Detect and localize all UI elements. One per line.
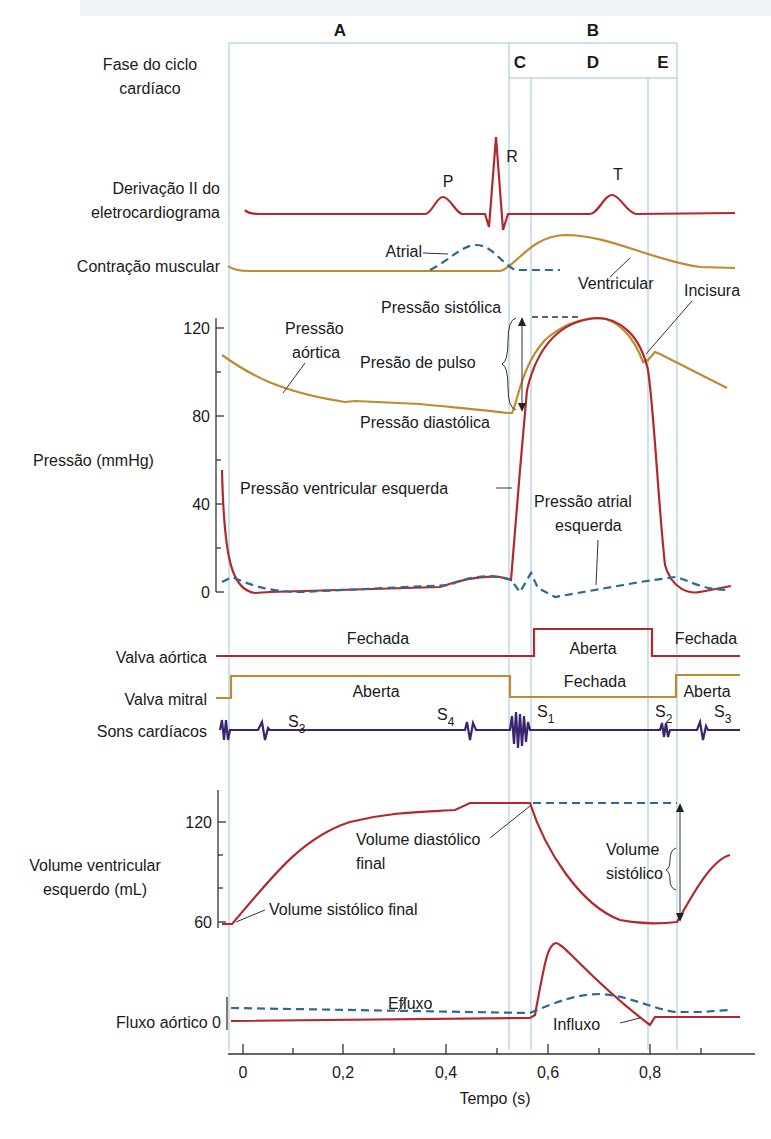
volume-axis-label-2: esquerdo (mL) — [43, 881, 147, 898]
arrow-up-icon — [518, 317, 526, 326]
flow-axis-label: Fluxo aórtico 0 — [116, 1014, 221, 1031]
ecg-r-label: R — [506, 148, 518, 165]
volume-axis — [218, 790, 226, 928]
phase-row-label-1: Fase do ciclo — [103, 56, 197, 73]
efflux-label: Efluxo — [388, 995, 433, 1012]
pressure-tick-120: 120 — [183, 320, 210, 337]
aortic-valve-trace — [216, 629, 740, 656]
ecg-trace — [245, 137, 735, 230]
time-tick-0-4: 0,4 — [435, 1064, 457, 1081]
phase-row-label-2: cardíaco — [119, 80, 180, 97]
s3-label-2: S3 — [714, 703, 732, 726]
phase-guides — [229, 43, 677, 1050]
pressure-axis — [216, 318, 224, 592]
mitral-valve-open-2: Aberta — [683, 683, 730, 700]
edv-label-2: final — [356, 855, 385, 872]
systolic-pressure-label: Pressão sistólica — [381, 299, 501, 316]
influx-label: Influxo — [553, 1016, 600, 1033]
mitral-valve-open-1: Aberta — [352, 683, 399, 700]
mitral-valve-label: Valva mitral — [125, 691, 207, 708]
cardiac-cycle-diagram: A B C D E Fase do ciclo cardíaco Derivaç… — [0, 0, 771, 1139]
s1-label: S1 — [537, 703, 555, 726]
pressure-axis-label: Pressão (mmHg) — [33, 452, 154, 469]
diastolic-pressure-label: Pressão diastólica — [360, 414, 490, 431]
ventricular-contraction-trace — [228, 235, 735, 271]
ecg-t-label: T — [613, 166, 623, 183]
aortic-valve-closed-1: Fechada — [347, 630, 409, 647]
esv-label: Volume sistólico final — [269, 901, 418, 918]
volume-tick-60: 60 — [194, 914, 212, 931]
pulse-pressure-label: Presão de pulso — [360, 354, 476, 371]
phase-c-label: C — [514, 53, 526, 72]
la-pressure-label-1: Pressão atrial — [534, 493, 632, 510]
time-tick-0-6: 0,6 — [537, 1064, 559, 1081]
incisura-label: Incisura — [684, 282, 740, 299]
ecg-label-1: Derivação II do — [112, 180, 220, 197]
time-axis — [228, 1044, 755, 1054]
phase-e-label: E — [657, 53, 668, 72]
phase-b-label: B — [587, 21, 599, 40]
s2-label: S2 — [655, 703, 673, 726]
aortic-valve-open: Aberta — [569, 640, 616, 657]
ventricular-label: Ventricular — [578, 275, 654, 292]
mitral-valve-closed: Fechada — [564, 673, 626, 690]
mitral-flow-trace — [231, 994, 730, 1013]
stroke-volume-brace — [666, 848, 676, 890]
s3-label-1: S3 — [288, 713, 306, 736]
stroke-volume-label-1: Volume — [606, 841, 659, 858]
la-pressure-trace — [222, 573, 730, 597]
time-tick-0-2: 0,2 — [332, 1064, 354, 1081]
mitral-valve-trace — [216, 675, 740, 698]
aortic-valve-label: Valva aórtica — [116, 649, 207, 666]
edv-label-1: Volume diastólico — [356, 831, 481, 848]
contraction-label: Contração muscular — [77, 258, 221, 275]
aortic-pressure-label-2: aórtica — [292, 344, 340, 361]
time-axis-label: Tempo (s) — [459, 1090, 530, 1107]
la-pressure-label-2: esquerda — [555, 517, 622, 534]
volume-tick-120: 120 — [185, 814, 212, 831]
lv-pressure-label: Pressão ventricular esquerda — [240, 480, 448, 497]
atrial-label: Atrial — [386, 243, 422, 260]
time-tick-0: 0 — [239, 1064, 248, 1081]
pressure-tick-40: 40 — [192, 496, 210, 513]
phase-a-label: A — [334, 21, 346, 40]
heart-sounds-label: Sons cardíacos — [97, 723, 207, 740]
volume-axis-label-1: Volume ventricular — [29, 857, 161, 874]
aortic-pressure-label-1: Pressão — [285, 320, 344, 337]
phase-d-label: D — [587, 53, 599, 72]
aortic-valve-closed-2: Fechada — [675, 630, 737, 647]
s4-label: S4 — [437, 706, 455, 729]
ecg-label-2: eletrocardiograma — [91, 204, 220, 221]
time-tick-0-8: 0,8 — [639, 1064, 661, 1081]
pressure-tick-80: 80 — [192, 408, 210, 425]
atrial-contraction-trace — [430, 245, 560, 270]
stroke-volume-label-2: sistólico — [606, 865, 663, 882]
pressure-tick-0: 0 — [201, 584, 210, 601]
ecg-p-label: P — [443, 173, 454, 190]
